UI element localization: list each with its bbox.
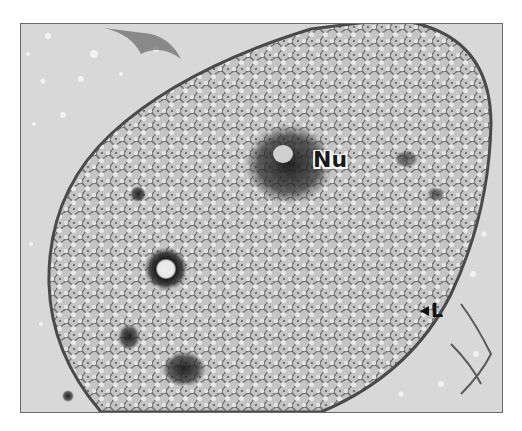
nucleolus-label: Nu	[313, 149, 347, 171]
micrograph-image	[21, 24, 502, 412]
l-label-text: L	[431, 301, 443, 320]
micrograph-frame	[20, 23, 503, 413]
arrowhead-icon	[420, 306, 429, 316]
l-label: L	[420, 301, 443, 320]
